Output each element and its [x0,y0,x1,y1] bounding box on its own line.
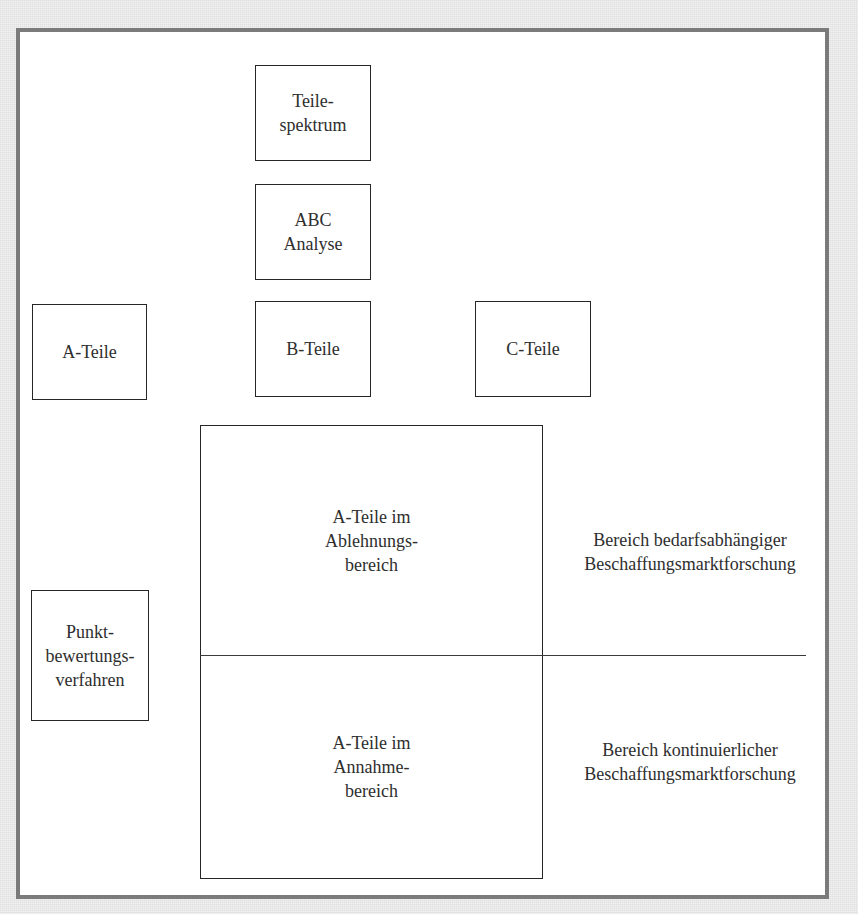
node-punktbewertung-line-2: bewertungs- [46,644,135,668]
node-ablehnungsbereich: A-Teile im Ablehnungs- bereich [200,426,543,656]
node-annahmebereich: A-Teile im Annahme- bereich [200,657,543,877]
node-teilespektrum: Teile- spektrum [255,65,371,161]
node-punktbewertung-line-3: verfahren [56,668,125,692]
node-punktbewertungsverfahren: Punkt- bewertungs- verfahren [31,590,149,721]
node-b-teile: B-Teile [255,301,371,397]
node-annahme-line-2: Annahme- [334,755,410,779]
label-bedarfsabhaengige-marktforschung: Bereich bedarfsabhängiger Beschaffungsma… [555,526,825,578]
divider-line [200,655,806,656]
node-abc-analyse-line-1: ABC [294,208,331,232]
node-b-teile-label: B-Teile [286,337,340,361]
node-c-teile-label: C-Teile [506,337,560,361]
label-kontinuierliche-marktforschung: Bereich kontinuierlicher Beschaffungsmar… [555,736,825,788]
node-punktbewertung-line-1: Punkt- [66,620,114,644]
node-teilespektrum-line-1: Teile- [292,89,334,113]
label-kontinuierlich-line-2: Beschaffungsmarktforschung [584,762,796,786]
label-kontinuierlich-line-1: Bereich kontinuierlicher [602,738,777,762]
node-ablehnung-line-2: Ablehnungs- [325,529,418,553]
node-c-teile: C-Teile [475,301,591,397]
node-annahme-line-3: bereich [345,779,398,803]
label-bedarf-line-2: Beschaffungsmarktforschung [584,552,796,576]
node-abc-analyse-line-2: Analyse [284,232,343,256]
node-annahme-line-1: A-Teile im [332,731,410,755]
label-bedarf-line-1: Bereich bedarfsabhängiger [593,528,786,552]
node-teilespektrum-line-2: spektrum [280,113,347,137]
node-abc-analyse: ABC Analyse [255,184,371,280]
node-a-teile-label: A-Teile [62,340,117,364]
node-a-teile: A-Teile [32,304,147,400]
node-ablehnung-line-3: bereich [345,553,398,577]
node-ablehnung-line-1: A-Teile im [332,505,410,529]
